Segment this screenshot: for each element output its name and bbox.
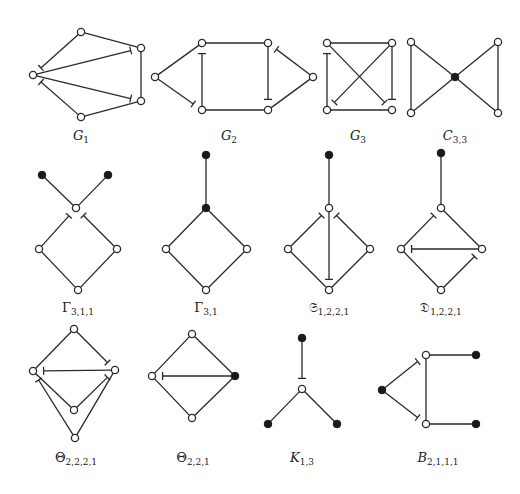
graph-G1: G1 xyxy=(29,28,144,145)
graphs-layer: G1G2G3C3,3Γ3,1,1Γ3,1𝔖1,2,2,1𝔇1,2,2,1Θ2,2… xyxy=(29,28,501,467)
graph-label: 𝔖1,2,2,1 xyxy=(309,300,350,317)
open-vertex xyxy=(397,245,404,252)
graph-edge xyxy=(84,102,137,116)
graph-label: Θ2,2,2,1 xyxy=(55,450,97,467)
graph-edge xyxy=(332,252,368,288)
open-vertex xyxy=(478,245,485,252)
filled-vertex xyxy=(231,372,239,380)
graph-edge xyxy=(36,332,72,369)
filled-vertex xyxy=(378,386,386,394)
graph-edge xyxy=(36,51,130,75)
graph-label: C3,3 xyxy=(443,128,468,145)
open-vertex xyxy=(494,38,501,45)
graph-edge xyxy=(271,79,310,108)
graph-edge xyxy=(458,79,495,110)
filled-vertex xyxy=(264,420,272,428)
open-vertex xyxy=(437,286,444,293)
open-vertex xyxy=(77,28,84,35)
graph-label: G1 xyxy=(73,128,89,145)
graph-edge xyxy=(334,46,389,103)
filled-vertex xyxy=(451,73,459,81)
open-vertex xyxy=(77,113,84,120)
open-vertex xyxy=(323,39,330,46)
open-vertex xyxy=(35,245,42,252)
graph-edge xyxy=(458,44,495,74)
graph-edge xyxy=(154,379,189,416)
graph-edge xyxy=(305,392,335,422)
graph-label: Γ3,1,1 xyxy=(62,300,94,317)
open-vertex xyxy=(137,97,144,104)
graph-edge xyxy=(195,337,233,374)
open-vertex xyxy=(137,44,144,51)
open-vertex xyxy=(29,367,36,374)
open-vertex xyxy=(325,286,332,293)
graph-edge xyxy=(169,211,204,247)
graph-edge xyxy=(39,380,73,435)
graph-edge xyxy=(41,34,78,68)
graph-edge xyxy=(169,252,204,288)
graph-G3: G3 xyxy=(323,39,396,145)
graph-edge xyxy=(404,216,434,247)
open-vertex xyxy=(111,366,118,373)
graph-edge xyxy=(154,337,189,374)
graph-figure: G1G2G3C3,3Γ3,1,1Γ3,1𝔖1,2,2,1𝔇1,2,2,1Θ2,2… xyxy=(0,0,520,494)
graph-Gamma31: Γ3,1 xyxy=(162,151,250,317)
open-vertex xyxy=(71,434,78,441)
open-vertex xyxy=(407,38,414,45)
open-vertex xyxy=(422,351,429,358)
open-vertex xyxy=(437,204,444,211)
graph-edge xyxy=(195,379,233,416)
graph-G2: G2 xyxy=(151,39,316,145)
graph-edge xyxy=(158,45,199,75)
graph-label: B2,1,1,1 xyxy=(416,450,458,467)
graph-edge xyxy=(41,82,78,115)
open-vertex xyxy=(162,245,169,252)
graph-Theta221: Θ2,2,1 xyxy=(148,330,238,467)
graph-edge xyxy=(385,362,418,388)
open-vertex xyxy=(407,109,414,116)
graph-edge xyxy=(77,377,108,407)
open-vertex xyxy=(284,245,291,252)
open-vertex xyxy=(309,73,316,80)
graph-label: 𝔇1,2,2,1 xyxy=(420,300,462,317)
open-vertex xyxy=(422,420,429,427)
graph-edge xyxy=(77,332,108,363)
graph-C33: C3,3 xyxy=(407,38,501,145)
graph-Theta2221: Θ2,2,2,1 xyxy=(29,325,118,467)
graph-edge xyxy=(84,33,137,47)
open-vertex xyxy=(72,204,79,211)
graph-edge xyxy=(336,215,367,246)
filled-vertex xyxy=(333,420,341,428)
graph-edge xyxy=(77,373,113,435)
graph-K13: K1,3 xyxy=(264,334,341,467)
open-vertex xyxy=(198,39,205,46)
graph-edge xyxy=(37,76,131,99)
filled-vertex xyxy=(202,151,210,159)
open-vertex xyxy=(325,204,332,211)
graph-edge xyxy=(45,178,74,206)
graph-edge xyxy=(209,252,245,288)
graph-edge xyxy=(414,44,452,75)
graph-edge xyxy=(444,256,475,287)
graph-S1221: 𝔖1,2,2,1 xyxy=(284,151,373,317)
open-vertex xyxy=(202,286,209,293)
open-vertex xyxy=(151,73,158,80)
graph-edge xyxy=(44,370,112,371)
open-vertex xyxy=(494,109,501,116)
graph-edge xyxy=(41,252,75,288)
filled-vertex xyxy=(38,171,46,179)
filled-vertex xyxy=(298,334,306,342)
graph-edge xyxy=(41,216,68,246)
open-vertex xyxy=(188,414,195,421)
edge-tick-mark xyxy=(415,414,420,420)
open-vertex xyxy=(264,39,271,46)
graph-edge xyxy=(80,252,114,288)
graph-D1221: 𝔇1,2,2,1 xyxy=(397,149,485,317)
graph-edge xyxy=(276,49,310,74)
filled-vertex xyxy=(472,420,480,428)
graph-edge xyxy=(414,79,452,110)
open-vertex xyxy=(148,372,155,379)
filled-vertex xyxy=(472,351,480,359)
graph-label: Γ3,1 xyxy=(194,300,217,317)
open-vertex xyxy=(243,245,250,252)
